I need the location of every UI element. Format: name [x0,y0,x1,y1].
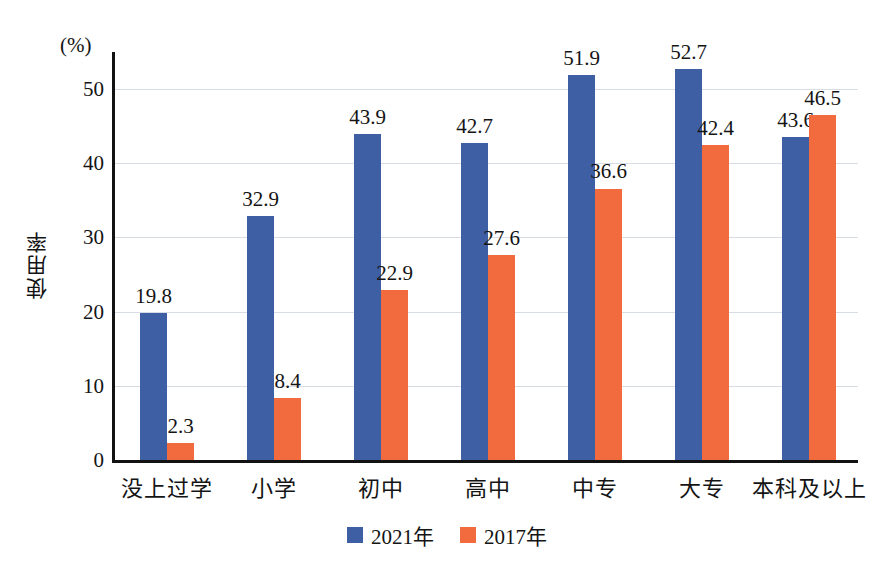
bar-value-label: 8.4 [274,369,300,394]
bar[interactable] [247,216,274,460]
bar-value-label: 19.8 [135,284,172,309]
bar-value-label: 51.9 [563,46,600,71]
y-axis-line [112,52,115,462]
y-axis-tick-label: 20 [58,299,104,324]
bar-value-label: 36.6 [590,159,627,184]
legend-item[interactable]: 2017年 [460,520,547,550]
bar[interactable] [568,75,595,460]
bar[interactable] [782,137,809,460]
y-axis-tick-labels: 01020304050 [52,52,104,462]
chart-legend: 2021年2017年 [0,520,894,550]
bar-value-label: 46.5 [804,86,841,111]
bar-value-label: 42.7 [456,114,493,139]
y-axis-tick-label: 30 [58,225,104,250]
legend-swatch-icon [347,527,363,543]
bar-value-label: 32.9 [242,187,279,212]
bar-value-label: 52.7 [670,40,707,65]
x-axis-category-label: 高中 [465,470,511,502]
y-axis-tick-label: 40 [58,151,104,176]
bar[interactable] [461,143,488,460]
legend-swatch-icon [460,527,476,543]
plot-area: 19.832.943.942.751.952.743.62.38.422.927… [112,52,858,462]
bar[interactable] [595,189,622,461]
legend-label: 2017年 [484,520,547,550]
bar-value-label: 27.6 [483,226,520,251]
bar-value-label: 42.4 [697,116,734,141]
bar[interactable] [140,313,167,460]
x-axis-category-label: 本科及以上 [752,470,867,502]
legend-label: 2021年 [371,520,434,550]
y-axis-tick-label: 10 [58,373,104,398]
bar[interactable] [702,145,729,460]
bar-value-label: 22.9 [376,261,413,286]
bar-chart: (%) 使用率 01020304050 19.832.943.942.751.9… [0,0,894,580]
x-axis-category-label: 小学 [251,470,297,502]
bar[interactable] [274,398,301,460]
bar[interactable] [167,443,194,460]
bar[interactable] [381,290,408,460]
y-axis-tick-label: 0 [58,448,104,473]
bar[interactable] [488,255,515,460]
y-axis-tick-label: 50 [58,77,104,102]
legend-item[interactable]: 2021年 [347,520,434,550]
bar-value-label: 43.9 [349,105,386,130]
gridline [115,89,858,90]
x-axis-category-label: 没上过学 [121,470,213,502]
x-axis-category-label: 中专 [572,470,618,502]
bar[interactable] [354,134,381,460]
x-axis-category-labels: 没上过学小学初中高中中专大专本科及以上 [112,470,858,506]
x-axis-category-label: 初中 [358,470,404,502]
bar-value-label: 2.3 [167,414,193,439]
bar[interactable] [809,115,836,460]
x-axis-category-label: 大专 [679,470,725,502]
x-axis-line [112,460,858,463]
